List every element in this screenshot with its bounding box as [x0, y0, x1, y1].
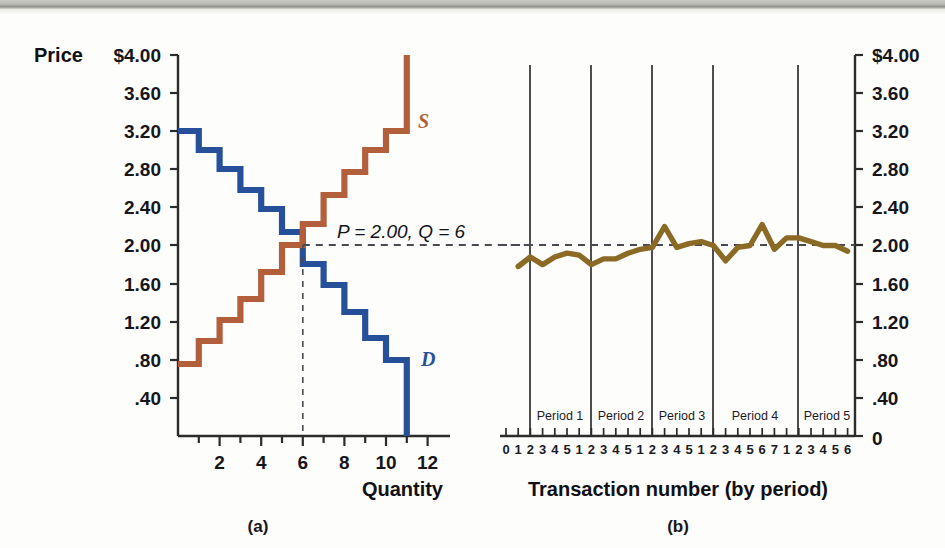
- xlabel-7: 2: [588, 442, 595, 457]
- transaction-axis-title: Transaction number (by period): [528, 478, 828, 500]
- panel-a-ytick-2: 3.20: [124, 121, 161, 142]
- panel-b-caption: (b): [667, 517, 689, 536]
- xlabel-2: 2: [527, 442, 534, 457]
- panel-a-xtick-12: 12: [417, 452, 438, 473]
- panel-a-xtick-2: 2: [214, 452, 225, 473]
- panel-a-ytick-8: .80: [135, 350, 161, 371]
- period-divider-lines: [530, 65, 798, 436]
- xlabel-23: 1: [783, 442, 790, 457]
- panel-a-xtick-6: 6: [298, 452, 309, 473]
- panel-b-ytick-8: .80: [872, 350, 898, 371]
- panel-a-ytick-5: 2.00: [124, 235, 161, 256]
- xlabel-0: 0: [502, 442, 509, 457]
- panel-b-ytick-0: $4.00: [872, 45, 920, 66]
- panel-a-ytick-9: .40: [135, 388, 161, 409]
- period-label-5: Period 5: [804, 409, 851, 423]
- equilibrium-annotation: P = 2.00, Q = 6: [337, 221, 466, 242]
- xlabel-24: 2: [795, 442, 802, 457]
- panel-b-ytick-10: 0: [872, 428, 883, 449]
- xlabel-13: 3: [661, 442, 668, 457]
- xlabel-10: 5: [624, 442, 631, 457]
- xlabel-21: 6: [759, 442, 766, 457]
- panel-a-ytick-6: 1.60: [124, 274, 161, 295]
- panel-b-ytick-6: 1.60: [872, 274, 909, 295]
- panel-a-ytick-4: 2.40: [124, 197, 161, 218]
- xlabel-20: 5: [746, 442, 753, 457]
- panel-b-ytick-1: 3.60: [872, 83, 909, 104]
- xlabel-26: 4: [820, 442, 828, 457]
- xlabel-1: 1: [515, 442, 522, 457]
- scan-artifact-band-top: [0, 0, 945, 9]
- xlabel-28: 6: [844, 442, 851, 457]
- panel-a-xtick-10: 10: [375, 452, 396, 473]
- panel-b: $4.00 3.60 3.20 2.80 2.40 2.00 1.60 1.20…: [500, 45, 920, 536]
- economics-figure: $4.00 3.60 3.20 2.80 2.40 2.00 1.60 1.20…: [0, 14, 945, 548]
- panel-a: $4.00 3.60 3.20 2.80 2.40 2.00 1.60 1.20…: [34, 44, 534, 536]
- period-label-3: Period 3: [659, 409, 706, 423]
- panel-a-xtick-4: 4: [256, 452, 267, 473]
- xlabel-18: 3: [722, 442, 729, 457]
- panel-a-xtick-8: 8: [339, 452, 350, 473]
- xlabel-4: 4: [551, 442, 559, 457]
- panel-a-x-ticks: [199, 436, 428, 446]
- panel-a-ytick-3: 2.80: [124, 159, 161, 180]
- supply-curve-label: S: [418, 110, 429, 132]
- xlabel-17: 2: [710, 442, 717, 457]
- panel-a-caption: (a): [248, 517, 269, 536]
- xlabel-9: 4: [612, 442, 620, 457]
- period-label-2: Period 2: [598, 409, 645, 423]
- transaction-number-labels: 0 1 2 3 4 5 1 2 3 4 5 1 2 3 4 5 1 2 3 4 …: [502, 442, 851, 457]
- xlabel-19: 4: [734, 442, 742, 457]
- panel-a-ytick-7: 1.20: [124, 312, 161, 333]
- xlabel-27: 5: [832, 442, 839, 457]
- xlabel-5: 5: [563, 442, 570, 457]
- xlabel-15: 5: [685, 442, 692, 457]
- xlabel-25: 3: [807, 442, 814, 457]
- panel-b-ytick-4: 2.40: [872, 197, 909, 218]
- panel-a-ytick-0: $4.00: [113, 45, 161, 66]
- period-label-1: Period 1: [537, 409, 584, 423]
- xlabel-12: 2: [649, 442, 656, 457]
- panel-b-ytick-3: 2.80: [872, 159, 909, 180]
- panel-b-ytick-2: 3.20: [872, 121, 909, 142]
- price-axis-title: Price: [34, 44, 83, 66]
- xlabel-16: 1: [698, 442, 705, 457]
- xlabel-6: 1: [576, 442, 583, 457]
- quantity-axis-title: Quantity: [362, 478, 444, 500]
- xlabel-8: 3: [600, 442, 607, 457]
- panel-b-ytick-5: 2.00: [872, 235, 909, 256]
- panel-b-ytick-7: 1.20: [872, 312, 909, 333]
- xlabel-11: 1: [637, 442, 644, 457]
- figure-svg: $4.00 3.60 3.20 2.80 2.40 2.00 1.60 1.20…: [0, 14, 945, 548]
- panel-a-ytick-1: 3.60: [124, 83, 161, 104]
- xlabel-14: 4: [673, 442, 681, 457]
- panel-b-ytick-9: .40: [872, 388, 898, 409]
- supply-curve: [178, 55, 407, 364]
- demand-curve: [178, 131, 407, 436]
- xlabel-3: 3: [539, 442, 546, 457]
- period-label-4: Period 4: [732, 409, 779, 423]
- xlabel-22: 7: [771, 442, 778, 457]
- demand-curve-label: D: [420, 348, 435, 370]
